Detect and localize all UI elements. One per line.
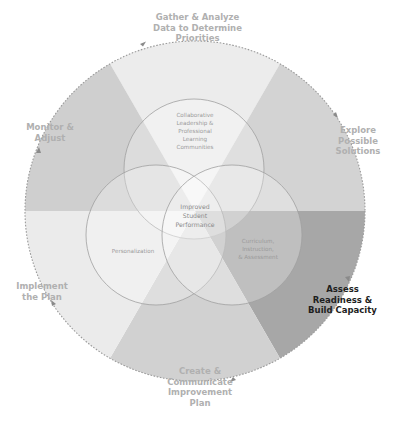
stage-label-line: Implement xyxy=(6,281,78,292)
stage-label-line: Solutions xyxy=(318,146,395,157)
venn-label-center: Improved Student Performance xyxy=(165,202,225,229)
stage-label-create: Create & Communicate Improvement Plan xyxy=(150,366,250,408)
stage-label-monitor: Monitor & Adjust xyxy=(14,122,86,143)
stage-label-assess: Assess Readiness & Build Capacity xyxy=(300,284,385,316)
venn-label-curriculum: Curriculum, Instruction, & Assessment xyxy=(228,237,288,261)
stage-label-gather: Gather & Analyze Data to Determine Prior… xyxy=(130,12,265,44)
venn-label-line: Instruction, xyxy=(228,245,288,253)
venn-circle-curriculum xyxy=(162,165,302,305)
stage-label-line: the Plan xyxy=(6,292,78,303)
venn-label-line: Learning xyxy=(160,135,230,143)
venn-label-line: Improved xyxy=(165,202,225,211)
venn-label-line: Curriculum, xyxy=(228,237,288,245)
stage-label-line: Priorities xyxy=(130,33,265,44)
venn-label-personalization: Personalization xyxy=(98,247,168,255)
stage-label-explore: Explore Possible Solutions xyxy=(318,125,395,157)
stage-label-line: Create & xyxy=(150,366,250,377)
stage-label-line: Plan xyxy=(150,398,250,409)
stage-label-line: Monitor & xyxy=(14,122,86,133)
stage-label-line: Gather & Analyze xyxy=(130,12,265,23)
venn-label-line: Professional xyxy=(160,127,230,135)
stage-label-line: Possible xyxy=(318,136,395,147)
venn-label-line: Leadership & xyxy=(160,119,230,127)
venn-label-line: Personalization xyxy=(98,247,168,255)
stage-label-line: Communicate xyxy=(150,377,250,388)
stage-label-line: Data to Determine xyxy=(130,23,265,34)
venn-label-line: Communities xyxy=(160,143,230,151)
venn-label-line: & Assessment xyxy=(228,253,288,261)
stage-label-line: Explore xyxy=(318,125,395,136)
stage-label-line: Build Capacity xyxy=(300,305,385,316)
venn-label-line: Performance xyxy=(165,220,225,229)
venn-label-line: Student xyxy=(165,211,225,220)
stage-label-line: Assess xyxy=(300,284,385,295)
stage-label-line: Adjust xyxy=(14,133,86,144)
stage-label-line: Readiness & xyxy=(300,295,385,306)
stage-label-implement: Implement the Plan xyxy=(6,281,78,302)
stage-label-line: Improvement xyxy=(150,387,250,398)
venn-label-line: Collaborative xyxy=(160,111,230,119)
venn-label-collaborative: Collaborative Leadership & Professional … xyxy=(160,111,230,151)
